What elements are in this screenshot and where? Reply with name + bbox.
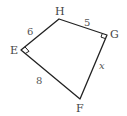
- quadrilateral-EHGF: [21, 19, 107, 99]
- right-angle-marker-E: [25, 47, 29, 54]
- vertex-label-F: F: [76, 102, 84, 115]
- vertex-label-E: E: [10, 44, 18, 57]
- vertex-label-G: G: [110, 28, 119, 41]
- side-label-HG: 5: [84, 17, 90, 28]
- side-label-EF: 8: [36, 75, 42, 86]
- quadrilateral-diagram: H G E F 6 5 8 x: [0, 0, 127, 116]
- side-label-GF: x: [99, 60, 105, 71]
- side-label-EH: 6: [27, 26, 33, 37]
- vertex-label-H: H: [55, 5, 65, 18]
